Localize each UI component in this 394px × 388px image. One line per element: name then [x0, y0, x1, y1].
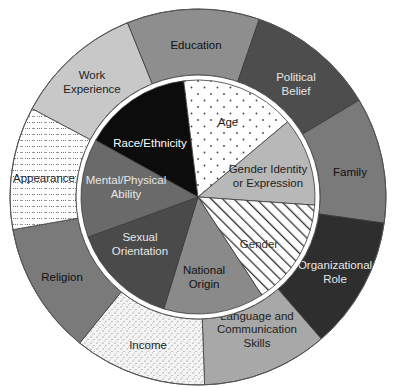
- segment-label: Income: [129, 339, 167, 351]
- segment-label: Gender: [240, 238, 279, 250]
- diversity-wheel: WorkExperienceEducationPoliticalBeliefFa…: [0, 0, 394, 388]
- wheel-svg: WorkExperienceEducationPoliticalBeliefFa…: [0, 0, 394, 388]
- inner-pie: Race/EthnicityAgeGender Identityor Expre…: [81, 80, 315, 314]
- segment-label: Religion: [41, 271, 83, 283]
- segment-label: Family: [333, 166, 367, 178]
- segment-label: Education: [170, 39, 221, 51]
- segment-label: Age: [218, 116, 238, 128]
- segment-label: Appearance: [13, 172, 75, 184]
- segment-label: PoliticalBelief: [276, 71, 316, 97]
- segment-label: NationalOrigin: [183, 264, 225, 290]
- segment-label: Gender Identityor Expression: [229, 163, 308, 189]
- segment-label: Race/Ethnicity: [113, 137, 187, 149]
